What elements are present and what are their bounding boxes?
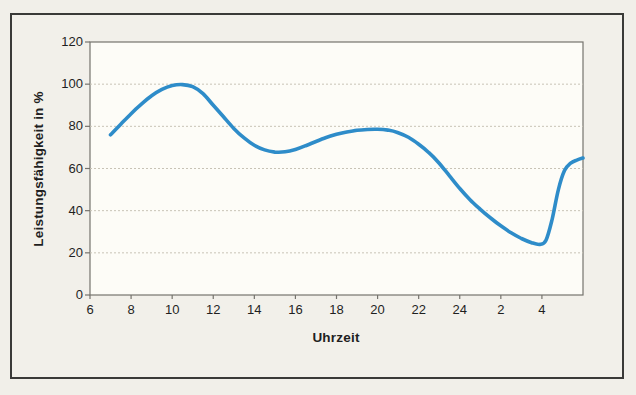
y-tick-label: 80 — [45, 119, 83, 133]
y-tick-label: 0 — [45, 288, 83, 302]
x-tick-label: 14 — [237, 303, 271, 317]
y-tick-label: 100 — [45, 77, 83, 91]
y-axis-title: Leistungsfähigkeit in % — [31, 91, 46, 246]
performance-chart — [80, 38, 590, 304]
x-tick-label: 8 — [114, 303, 148, 317]
x-tick-label: 6 — [73, 303, 107, 317]
x-tick-label: 20 — [361, 303, 395, 317]
x-tick-label: 16 — [278, 303, 312, 317]
y-tick-label: 60 — [45, 162, 83, 176]
x-tick-label: 22 — [402, 303, 436, 317]
y-tick-label: 40 — [45, 204, 83, 218]
x-tick-label: 2 — [484, 303, 518, 317]
y-tick-label: 120 — [45, 35, 83, 49]
x-tick-label: 24 — [443, 303, 477, 317]
x-axis-title: Uhrzeit — [312, 330, 359, 345]
x-tick-label: 18 — [320, 303, 354, 317]
y-tick-label: 20 — [45, 246, 83, 260]
x-tick-label: 4 — [525, 303, 559, 317]
x-tick-label: 12 — [196, 303, 230, 317]
x-tick-label: 10 — [155, 303, 189, 317]
